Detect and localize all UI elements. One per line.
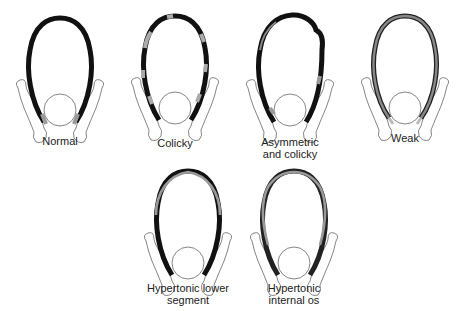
panel-hypertonic-internal-os: Hypertonic internal os: [234, 163, 354, 311]
uterus-hypertonic-lower-figure: [128, 163, 248, 283]
uterus-normal-figure: [0, 10, 120, 130]
panel-colicky: Colicky: [115, 8, 235, 148]
label-weak: Weak: [345, 132, 462, 144]
panel-weak: Weak: [345, 8, 462, 148]
label-hypertonic-lower-segment: Hypertonic lower segment: [128, 282, 248, 306]
uterus-asymmetric-figure: [230, 10, 350, 130]
label-asymmetric-colicky: Asymmetric and colicky: [230, 136, 350, 160]
label-hypertonic-internal-os: Hypertonic internal os: [234, 282, 354, 306]
label-colicky: Colicky: [115, 137, 235, 149]
uterus-hypertonic-os-figure: [234, 163, 354, 283]
panel-normal: Normal: [0, 10, 120, 150]
panel-asymmetric-colicky: Asymmetric and colicky: [230, 10, 350, 160]
label-normal: Normal: [0, 135, 120, 147]
uterus-weak-figure: [345, 8, 462, 128]
panel-hypertonic-lower-segment: Hypertonic lower segment: [128, 163, 248, 311]
uterus-colicky-figure: [115, 8, 235, 128]
